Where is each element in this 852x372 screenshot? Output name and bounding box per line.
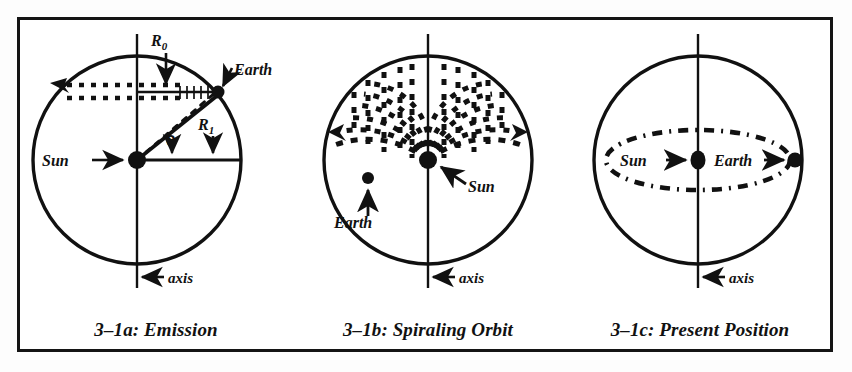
panel-c-caption: 3–1c: Present Position bbox=[564, 319, 836, 341]
sun-dot bbox=[691, 151, 706, 170]
r-inner-label: R1 bbox=[197, 116, 214, 136]
panel-a-caption: 3–1a: Emission bbox=[20, 319, 292, 341]
earth-dot bbox=[788, 153, 803, 168]
axis-label: axis bbox=[168, 270, 193, 286]
earth-dot bbox=[362, 172, 374, 184]
earth-pointer bbox=[223, 68, 232, 86]
panel-spiraling-orbit: Sun Earth axis 3–1b: Spiraling Orbit bbox=[292, 20, 564, 355]
axis-label: axis bbox=[459, 270, 484, 286]
earth-label: Earth bbox=[233, 61, 272, 78]
figure-root: Sun Earth R0 R1 θ bbox=[0, 0, 852, 372]
panel-b-graphic: Sun Earth axis bbox=[292, 20, 564, 355]
r-outer-label: R0 bbox=[150, 32, 168, 52]
panel-b-caption: 3–1b: Spiraling Orbit bbox=[292, 319, 564, 341]
sun-dot bbox=[419, 151, 437, 169]
panel-a-graphic: Sun Earth R0 R1 θ bbox=[20, 20, 292, 355]
panel-present-position: Sun Earth axis 3–1c: Present Position bbox=[564, 20, 836, 355]
theta-label: θ bbox=[166, 133, 176, 149]
axis-label: axis bbox=[729, 270, 754, 286]
panel-emission: Sun Earth R0 R1 θ bbox=[20, 20, 292, 355]
sun-label: Sun bbox=[620, 152, 647, 169]
figure-border: Sun Earth R0 R1 θ bbox=[17, 17, 833, 352]
earth-dot bbox=[212, 86, 225, 99]
sun-label: Sun bbox=[42, 152, 69, 169]
earth-label: Earth bbox=[333, 214, 372, 231]
earth-label: Earth bbox=[713, 152, 752, 169]
sun-dot bbox=[128, 151, 146, 169]
sun-label: Sun bbox=[468, 178, 495, 195]
panel-c-graphic: Sun Earth axis bbox=[564, 20, 836, 355]
sun-pointer bbox=[441, 167, 466, 184]
